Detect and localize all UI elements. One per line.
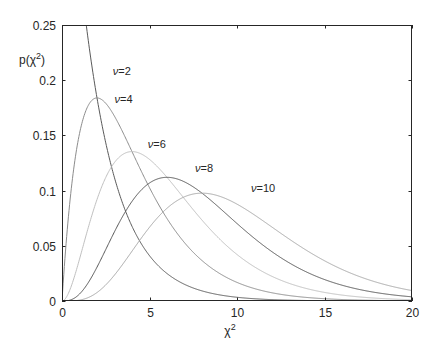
axes: 0510152000.050.10.150.20.25χ2p(χ2) bbox=[19, 19, 419, 339]
curve-nu-4 bbox=[62, 98, 412, 301]
y-tick-label: 0.1 bbox=[39, 185, 56, 199]
curve-label: ν=8 bbox=[195, 162, 213, 174]
curve-nu-2 bbox=[62, 0, 412, 301]
x-axis-label: χ2 bbox=[224, 322, 235, 338]
curve-nu-10 bbox=[62, 193, 412, 301]
x-tick-label: 15 bbox=[319, 306, 333, 320]
curve-label: ν=6 bbox=[148, 138, 166, 150]
y-axis-label: p(χ2) bbox=[19, 51, 45, 67]
chi-square-chart: 0510152000.050.10.150.20.25χ2p(χ2) ν=2ν=… bbox=[0, 0, 438, 350]
curve-label: ν=2 bbox=[113, 65, 131, 77]
y-tick-label: 0.05 bbox=[33, 240, 57, 254]
x-tick-label: 20 bbox=[406, 306, 420, 320]
curves bbox=[62, 0, 412, 301]
curve-label: ν=10 bbox=[251, 182, 275, 194]
y-tick-label: 0.25 bbox=[33, 19, 57, 33]
curve-nu-6 bbox=[62, 152, 412, 301]
curve-labels: ν=2ν=4ν=6ν=8ν=10 bbox=[113, 65, 275, 194]
y-tick-label: 0 bbox=[49, 295, 56, 309]
x-tick-label: 0 bbox=[59, 306, 66, 320]
y-tick-label: 0.15 bbox=[33, 129, 57, 143]
curve-label: ν=4 bbox=[115, 93, 133, 105]
y-tick-label: 0.2 bbox=[39, 74, 56, 88]
x-tick-label: 5 bbox=[147, 306, 154, 320]
x-tick-label: 10 bbox=[231, 306, 245, 320]
